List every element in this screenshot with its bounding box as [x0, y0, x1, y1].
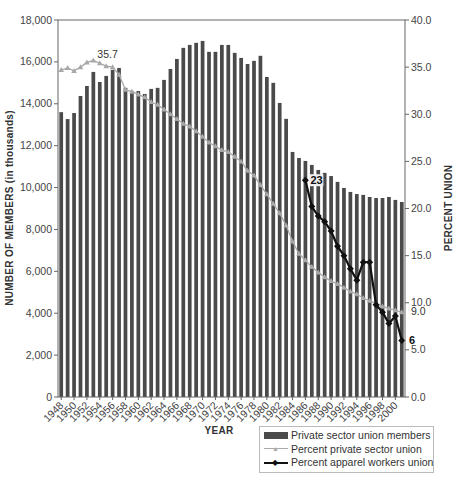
bar: [207, 52, 211, 397]
bar: [252, 61, 256, 397]
bar: [91, 72, 95, 397]
y-tick-label: 10,000: [20, 181, 52, 193]
triangle-marker-icon: [283, 222, 289, 227]
data-label: 6: [409, 334, 415, 346]
y2-tick-label: 30.0: [411, 108, 432, 120]
legend-item-private-members: Private sector union members: [264, 429, 429, 443]
bar: [149, 89, 153, 397]
bar: [66, 119, 70, 397]
bar: [381, 198, 385, 397]
bar: [304, 161, 308, 397]
data-label: 9.0: [411, 305, 426, 317]
bar: [136, 91, 140, 397]
bar: [79, 96, 83, 397]
line-series-percent-private: [58, 58, 404, 315]
diamond-marker-icon: [360, 259, 367, 266]
y-tick-label: 16,000: [20, 55, 52, 67]
legend-label: Private sector union members: [291, 429, 430, 443]
bar: [393, 200, 397, 397]
y-tick-label: 14,000: [20, 97, 52, 109]
bar: [117, 68, 121, 397]
triangle-line-swatch-icon: [264, 444, 288, 454]
bar-series-private-members: [59, 41, 403, 397]
bar: [233, 53, 237, 397]
bar: [284, 119, 288, 397]
bar: [226, 45, 230, 397]
bar: [349, 192, 353, 397]
bar: [59, 112, 63, 397]
y-tick-label: 18,000: [20, 14, 52, 26]
triangle-marker-icon: [174, 116, 180, 121]
triangle-marker-icon: [78, 64, 84, 69]
bar: [246, 64, 250, 397]
bar: [85, 86, 89, 397]
bar: [316, 170, 320, 397]
diamond-marker-icon: [398, 337, 405, 344]
bar: [111, 70, 115, 397]
bar: [130, 91, 134, 397]
bar: [98, 82, 102, 397]
bar: [181, 48, 185, 397]
diamond-marker-icon: [302, 177, 309, 184]
bar: [143, 94, 147, 397]
bar: [336, 182, 340, 397]
bar: [323, 173, 327, 397]
triangle-marker-icon: [251, 173, 257, 178]
bar: [220, 45, 224, 397]
bar: [194, 43, 198, 397]
bar: [387, 197, 391, 397]
y-tick-label: 0: [46, 391, 52, 403]
plot-frame: [58, 20, 405, 397]
bar: [162, 80, 166, 397]
data-label: 35.7: [97, 48, 118, 60]
bar: [271, 83, 275, 397]
triangle-marker-icon: [65, 65, 71, 70]
triangle-marker-icon: [161, 107, 167, 112]
bar: [188, 45, 192, 397]
triangle-marker-icon: [123, 87, 129, 92]
legend-item-percent-private: Percent private sector union: [264, 443, 429, 457]
y-axis-title-left: NUMBER OF MEMBERS (in thousands): [4, 110, 15, 306]
y-axis-title-right: PERCENT UNION: [443, 165, 454, 252]
y-tick-label: 12,000: [20, 139, 52, 151]
y2-tick-label: 25.0: [411, 155, 432, 167]
triangle-marker-icon: [238, 158, 244, 163]
y2-tick-label: 20.0: [411, 202, 432, 214]
bar: [169, 69, 173, 397]
bar: [72, 113, 76, 397]
diamond-marker-icon: [366, 259, 373, 266]
bar: [368, 197, 372, 397]
legend-item-percent-apparel: Percent apparel workers union: [264, 456, 429, 470]
bar: [239, 58, 243, 397]
legend: Private sector union members Percent pri…: [259, 426, 434, 473]
y-tick-label: 8,000: [26, 223, 52, 235]
bar: [104, 76, 108, 397]
bar: [278, 103, 282, 397]
bar: [124, 88, 128, 397]
bar-swatch-icon: [264, 432, 288, 439]
legend-label: Percent apparel workers union: [291, 456, 433, 470]
y2-tick-label: 35.0: [411, 61, 432, 73]
data-label: 23: [310, 174, 322, 186]
triangle-marker-icon: [322, 274, 328, 279]
y2-tick-label: 40.0: [411, 14, 432, 26]
bar: [201, 41, 205, 397]
bar: [297, 158, 301, 397]
y2-tick-label: 15.0: [411, 249, 432, 261]
y-tick-label: 2,000: [26, 349, 52, 361]
legend-label: Percent private sector union: [291, 443, 422, 457]
x-axis-title: YEAR: [205, 425, 234, 436]
triangle-marker-icon: [168, 111, 174, 116]
y2-tick-label: 0.0: [411, 391, 426, 403]
y-tick-label: 6,000: [26, 265, 52, 277]
triangle-marker-icon: [193, 128, 199, 133]
diamond-line-swatch-icon: [264, 458, 288, 468]
triangle-marker-icon: [290, 238, 296, 243]
y-tick-label: 4,000: [26, 307, 52, 319]
triangle-marker-icon: [296, 251, 302, 256]
bar: [291, 152, 295, 397]
bar: [156, 88, 160, 397]
bar: [342, 188, 346, 397]
chart-canvas: 02,0004,0006,0008,00010,00012,00014,0001…: [0, 0, 456, 481]
bar: [175, 59, 179, 397]
